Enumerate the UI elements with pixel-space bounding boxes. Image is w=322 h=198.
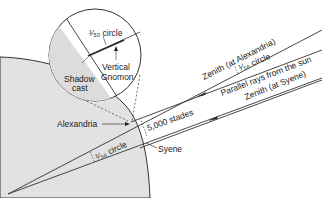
vertical-gnomon-label-1: Vertical [102,62,130,72]
vertical-gnomon-label-2: Gnomon [101,72,134,82]
shadow-cast-label-2: cast [72,83,88,93]
syene-label: Syene [158,144,182,154]
distance-label: 5,000 stades [145,107,194,133]
eratosthenes-diagram: ¹⁄₅₀ circle Shadow cast Vertical Gnomon … [0,0,322,198]
inset-angle-label: ¹⁄₅₀ circle [89,28,123,38]
alexandria-label: Alexandria [57,119,97,129]
